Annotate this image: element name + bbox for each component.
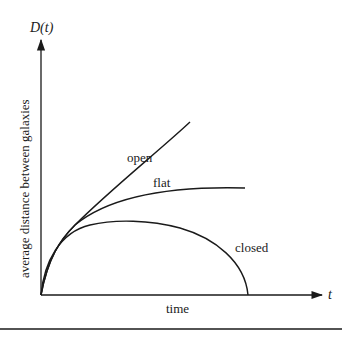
expansion-diagram: D(t) t average distance between galaxies… bbox=[0, 0, 342, 337]
curve-closed bbox=[41, 221, 248, 295]
label-open: open bbox=[127, 150, 153, 165]
label-flat: flat bbox=[153, 175, 171, 190]
curve-open bbox=[41, 122, 190, 295]
x-axis-label: time bbox=[166, 301, 189, 316]
curve-flat bbox=[41, 188, 245, 295]
y-axis-label: average distance between galaxies bbox=[17, 99, 32, 278]
label-closed: closed bbox=[235, 240, 269, 255]
x-axis-symbol: t bbox=[328, 287, 333, 302]
y-axis-symbol: D(t) bbox=[29, 20, 54, 36]
